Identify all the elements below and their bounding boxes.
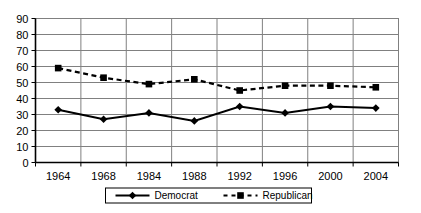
x-axis-tick-labels: 19641968198419881992199620002004 [46, 170, 388, 182]
x-tick-label: 1964 [46, 170, 70, 182]
diamond-marker-icon [281, 109, 289, 117]
y-tick-label: 50 [16, 77, 28, 89]
y-tick-label: 40 [16, 93, 28, 105]
x-tick-label: 1988 [182, 170, 206, 182]
x-tick-label: 1968 [91, 170, 115, 182]
y-tick-label: 20 [16, 125, 28, 137]
y-tick-label: 30 [16, 109, 28, 121]
square-marker-icon [236, 87, 243, 94]
y-axis-tick-labels: 0102030405060708090 [16, 13, 28, 169]
square-marker-icon [373, 84, 380, 91]
y-tick-label: 10 [16, 141, 28, 153]
y-tick-label: 70 [16, 45, 28, 57]
diamond-marker-icon [327, 103, 335, 111]
legend-label-republican: Republican [263, 190, 313, 201]
diamond-marker-icon [54, 106, 62, 114]
diamond-marker-icon [236, 103, 244, 111]
square-marker-icon [237, 192, 244, 199]
square-marker-icon [282, 82, 289, 89]
line-chart: 0102030405060708090 19641968198419881992… [0, 0, 421, 213]
x-tick-label: 1992 [227, 170, 251, 182]
y-tick-label: 60 [16, 61, 28, 73]
diamond-marker-icon [145, 109, 153, 117]
vertical-gridlines [81, 19, 353, 163]
square-marker-icon [146, 81, 153, 88]
square-marker-icon [100, 74, 107, 81]
x-tick-label: 2004 [364, 170, 388, 182]
square-marker-icon [327, 82, 334, 89]
chart-container: 0102030405060708090 19641968198419881992… [0, 0, 421, 213]
chart-legend: DemocratRepublican [106, 188, 313, 203]
legend-label-democrat: Democrat [155, 190, 199, 201]
square-marker-icon [191, 76, 198, 83]
y-tick-label: 80 [16, 29, 28, 41]
x-tick-label: 2000 [318, 170, 342, 182]
y-tick-label: 90 [16, 13, 28, 25]
square-marker-icon [55, 65, 62, 72]
x-tick-label: 1996 [273, 170, 297, 182]
x-tick-label: 1984 [137, 170, 161, 182]
diamond-marker-icon [372, 104, 380, 112]
y-tick-label: 0 [22, 157, 28, 169]
diamond-marker-icon [191, 117, 199, 125]
diamond-marker-icon [100, 116, 108, 124]
